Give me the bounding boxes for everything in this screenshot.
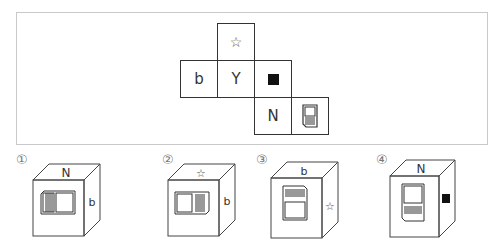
option-2[interactable]: ② ☆ b: [146, 150, 266, 244]
letter-n: N: [267, 109, 278, 124]
net-cell-left: b: [180, 60, 218, 98]
face-side-label: ☆: [325, 200, 335, 213]
letter-y: Y: [231, 72, 240, 87]
document-icon: [41, 191, 75, 214]
option-4[interactable]: ④ N: [370, 150, 490, 244]
face-top-label: b: [301, 165, 308, 178]
face-top-label: N: [417, 162, 426, 176]
net-cell-bottom: N: [254, 97, 292, 135]
document-icon: [175, 192, 209, 214]
option-1[interactable]: ① N b: [16, 150, 136, 244]
net-cell-top: ☆: [217, 23, 255, 61]
black-square-icon: [268, 74, 279, 85]
face-side-label: b: [224, 195, 231, 208]
document-icon: [302, 104, 318, 128]
black-square-icon: [442, 194, 450, 203]
net-cell-right: [254, 60, 292, 98]
document-icon: [283, 186, 307, 220]
face-side-label: b: [89, 196, 96, 209]
document-icon: [402, 184, 424, 221]
face-top-label: N: [62, 166, 71, 180]
option-3[interactable]: ③ b ☆: [250, 150, 370, 244]
star-icon: ☆: [230, 35, 243, 49]
net-cell-bottom-right: [291, 97, 329, 135]
letter-b: b: [194, 72, 204, 87]
face-top-label: ☆: [196, 167, 206, 180]
net-cell-center: Y: [217, 60, 255, 98]
